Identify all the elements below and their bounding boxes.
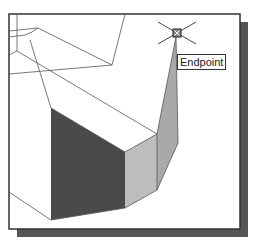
drawing-viewport[interactable]: Endpoint [0, 0, 256, 241]
viewport-shadow-bottom [17, 229, 248, 237]
snap-tooltip: Endpoint [177, 54, 226, 70]
viewport-shadow-right [240, 22, 248, 237]
cad-drawing-canvas[interactable] [0, 0, 256, 241]
